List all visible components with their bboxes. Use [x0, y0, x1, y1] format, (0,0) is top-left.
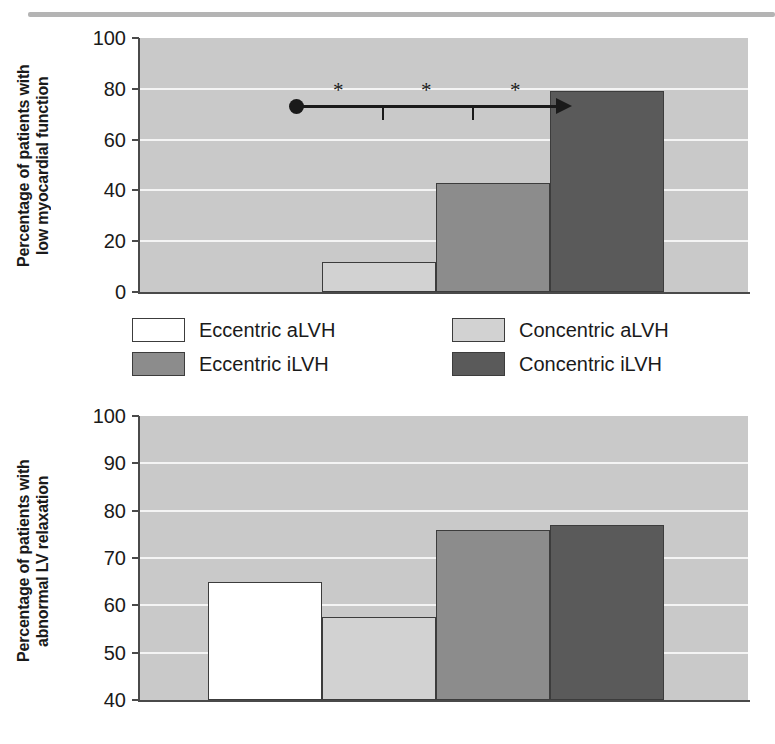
y-tick-mark	[132, 699, 139, 701]
bar-eccentric-ilvh	[436, 183, 550, 292]
y-tick-mark	[132, 37, 139, 39]
trend-line	[300, 105, 558, 108]
y-tick-label: 90	[60, 453, 126, 473]
bar-concentric-ilvh	[550, 525, 664, 700]
trend-tick-2	[472, 107, 474, 120]
bar-concentric-ilvh	[550, 91, 664, 292]
y-tick-mark	[132, 189, 139, 191]
y-axis-label-bottom: Percentage of patients with abnormal LV …	[14, 408, 60, 714]
legend-item: Concentric iLVH	[452, 352, 662, 376]
legend: Eccentric aLVHConcentric aLVHEccentric i…	[132, 318, 752, 384]
legend-item: Concentric aLVH	[452, 318, 669, 342]
legend-label: Eccentric aLVH	[199, 319, 335, 342]
bar-eccentric-alvh	[208, 582, 322, 700]
y-tick-mark	[132, 604, 139, 606]
y-tick-label: 40	[60, 690, 126, 710]
trend-tick-1	[382, 107, 384, 120]
x-axis-spine-top	[138, 292, 750, 294]
significance-star-3: *	[510, 80, 521, 101]
y-tick-mark	[132, 240, 139, 242]
y-tick-mark	[132, 415, 139, 417]
y-axis-spine-top	[138, 38, 140, 294]
y-tick-mark	[132, 291, 139, 293]
gridline	[140, 462, 748, 464]
gridline	[140, 510, 748, 512]
y-tick-label: 20	[60, 231, 126, 251]
y-tick-mark	[132, 462, 139, 464]
bar-eccentric-ilvh	[436, 530, 550, 700]
chart-bottom-panel: Percentage of patients with abnormal LV …	[0, 408, 775, 738]
y-tick-label: 40	[60, 180, 126, 200]
legend-item: Eccentric iLVH	[132, 352, 329, 376]
y-tick-label: 70	[60, 548, 126, 568]
y-tick-label: 80	[60, 79, 126, 99]
significance-star-2: *	[421, 80, 432, 101]
y-tick-mark	[132, 139, 139, 141]
y-tick-label: 100	[60, 28, 126, 48]
y-tick-label: 0	[60, 282, 126, 302]
legend-label: Eccentric iLVH	[199, 353, 329, 376]
x-axis-spine-bottom	[138, 700, 750, 702]
y-axis-spine-bottom	[138, 416, 140, 702]
bar-concentric-alvh	[322, 262, 436, 292]
legend-swatch	[452, 352, 505, 376]
y-tick-mark	[132, 557, 139, 559]
y-tick-mark	[132, 88, 139, 90]
y-tick-label: 100	[60, 406, 126, 426]
header-rule	[28, 12, 775, 17]
legend-label: Concentric aLVH	[519, 319, 669, 342]
legend-label: Concentric iLVH	[519, 353, 662, 376]
legend-swatch	[452, 318, 505, 342]
y-tick-mark	[132, 510, 139, 512]
y-tick-label: 60	[60, 130, 126, 150]
bar-concentric-alvh	[322, 617, 436, 700]
y-tick-mark	[132, 652, 139, 654]
legend-item: Eccentric aLVH	[132, 318, 335, 342]
legend-swatch	[132, 352, 185, 376]
legend-swatch	[132, 318, 185, 342]
chart-top-panel: Percentage of patients with low myocardi…	[0, 30, 775, 310]
figure-root: Percentage of patients with low myocardi…	[0, 0, 775, 744]
y-tick-label: 50	[60, 643, 126, 663]
y-axis-label-top: Percentage of patients with low myocardi…	[14, 30, 60, 302]
trend-arrowhead	[556, 98, 572, 114]
significance-star-1: *	[333, 80, 344, 101]
y-tick-label: 60	[60, 595, 126, 615]
gridline	[140, 88, 748, 90]
y-tick-label: 80	[60, 501, 126, 521]
